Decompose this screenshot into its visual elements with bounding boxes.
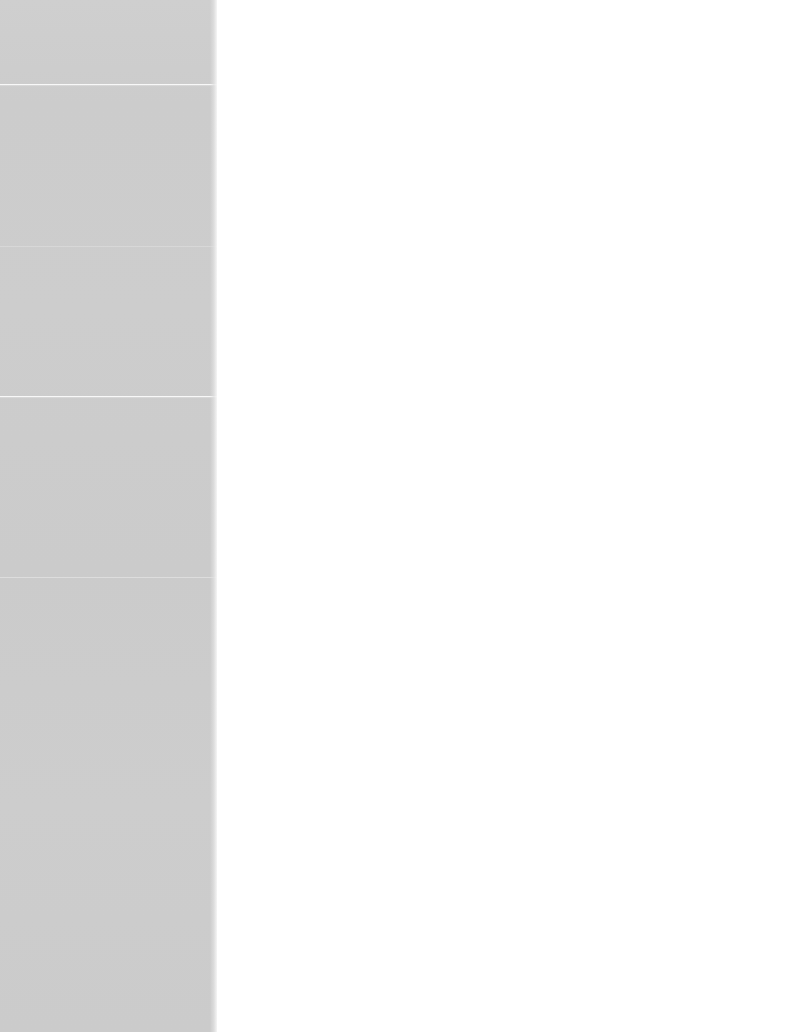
sidebar-section-3[interactable] bbox=[0, 247, 217, 396]
sidebar-section-list bbox=[0, 0, 217, 1032]
app-window bbox=[0, 0, 790, 1032]
content-pane[interactable] bbox=[217, 0, 790, 1032]
content-empty-state bbox=[217, 0, 790, 1032]
sidebar-panel[interactable] bbox=[0, 0, 217, 1032]
sidebar-section-5[interactable] bbox=[0, 578, 217, 1032]
sidebar-section-2[interactable] bbox=[0, 85, 217, 246]
sidebar-section-4[interactable] bbox=[0, 397, 217, 577]
sidebar-section-1[interactable] bbox=[0, 0, 217, 84]
sidebar-section-1-label bbox=[0, 0, 217, 6]
sidebar-section-2-label bbox=[0, 85, 217, 91]
sidebar-section-5-label bbox=[0, 578, 217, 584]
sidebar-section-4-label bbox=[0, 397, 217, 403]
sidebar-section-3-label bbox=[0, 247, 217, 253]
